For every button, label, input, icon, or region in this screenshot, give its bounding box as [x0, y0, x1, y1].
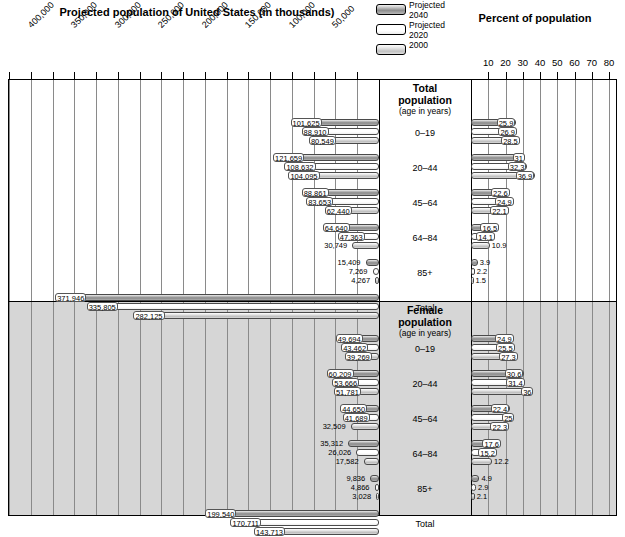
percent-bar	[471, 242, 490, 249]
right-axis-tickmark	[506, 72, 507, 79]
count-value-label: 4,866	[351, 483, 370, 492]
count-value-label: 7,269	[349, 267, 368, 276]
age-group-label: 45–64	[379, 198, 471, 208]
count-value-label: 88,861	[302, 188, 329, 197]
percent-value-label: 25.9	[497, 118, 516, 127]
age-group-label: Total	[379, 519, 471, 529]
count-value-label: 335,805	[87, 302, 118, 311]
count-value-label: 3,028	[352, 492, 371, 501]
percent-value-label: 26.9	[498, 127, 517, 136]
count-bar	[366, 259, 379, 266]
gridline	[161, 302, 162, 515]
age-group-label: 20–44	[379, 163, 471, 173]
gridline	[248, 80, 249, 301]
percent-bar	[471, 268, 475, 275]
count-value-label: 64,640	[323, 223, 350, 232]
percent-value-label: 22.6	[491, 188, 510, 197]
gridline	[540, 302, 541, 515]
count-value-label: 15,409	[338, 258, 361, 267]
count-value-label: 143,713	[254, 527, 285, 536]
percent-value-label: 14.1	[476, 232, 495, 241]
percent-value-label: 25.5	[496, 343, 515, 352]
panel-heading-line1: Total	[379, 83, 471, 95]
gridline	[609, 80, 610, 301]
count-bar	[351, 423, 379, 430]
count-value-label: 39,269	[345, 352, 372, 361]
age-group-label: 64–84	[379, 233, 471, 243]
gridline	[183, 302, 184, 515]
left-axis-minor-tickmark	[270, 72, 271, 79]
left-axis-tickmark	[335, 72, 336, 79]
count-value-label: 104,095	[288, 171, 319, 180]
gridline	[592, 302, 593, 515]
gridline	[118, 80, 119, 301]
right-axis-tickmark	[488, 72, 489, 79]
age-group-label: 85+	[379, 268, 471, 278]
count-value-label: 51,781	[334, 387, 361, 396]
gridline	[523, 80, 524, 301]
legend-swatch-p2020	[376, 24, 406, 35]
left-axis-minor-tickmark	[53, 72, 54, 79]
percent-value-label: 3.9	[480, 258, 490, 267]
panel-heading-line1: Female	[379, 305, 471, 317]
percent-value-label: 22.3	[490, 422, 509, 431]
gridline	[140, 302, 141, 515]
age-group-label: 45–64	[379, 414, 471, 424]
percent-value-label: 36.9	[516, 171, 535, 180]
count-bar	[370, 475, 379, 482]
gridline	[292, 302, 293, 515]
percent-value-label: 22.1	[490, 206, 509, 215]
gridline	[575, 80, 576, 301]
right-axis-tickmark	[523, 72, 524, 79]
count-value-label: 43,462	[341, 343, 368, 352]
legend-swatch-p2040	[376, 4, 406, 15]
left-axis-tickmark	[161, 72, 162, 79]
left-axis-tickmark	[31, 72, 32, 79]
panel-heading-subtitle: (age in years)	[379, 328, 471, 340]
left-axis-minor-tickmark	[357, 72, 358, 79]
percent-value-label: 30.6	[505, 369, 524, 378]
panel-heading-female: Femalepopulation(age in years)	[379, 305, 471, 340]
gridline	[592, 80, 593, 301]
count-bar	[352, 242, 379, 249]
gridline	[9, 80, 10, 301]
percent-bar	[471, 259, 478, 266]
count-value-label: 83,653	[306, 197, 333, 206]
gridline	[557, 302, 558, 515]
count-value-label: 35,312	[320, 439, 343, 448]
right-chart-title: Percent of population	[455, 12, 615, 24]
gridline	[53, 80, 54, 301]
percent-bar	[471, 484, 476, 491]
count-bar	[375, 277, 379, 284]
count-value-label: 60,209	[327, 369, 354, 378]
count-value-label: 62,440	[325, 206, 352, 215]
count-value-label: 49,694	[336, 334, 363, 343]
percent-bar	[471, 493, 475, 500]
right-axis-tickmark	[592, 72, 593, 79]
gridline	[205, 302, 206, 515]
left-axis-tickmark	[248, 72, 249, 79]
percent-value-label: 22.4	[491, 404, 510, 413]
right-axis-tickmark	[575, 72, 576, 79]
gridline	[9, 302, 10, 515]
percent-value-label: 17.6	[482, 439, 501, 448]
percent-value-label: 15.2	[478, 448, 497, 457]
count-bar	[87, 303, 379, 310]
gridline	[74, 80, 75, 301]
percent-value-label: 4.9	[481, 474, 491, 483]
count-value-label: 170,711	[230, 518, 261, 527]
gridline	[248, 302, 249, 515]
count-value-label: 53,666	[332, 378, 359, 387]
legend-item-p2020: Projected2020	[376, 22, 476, 42]
gridline	[31, 80, 32, 301]
percent-value-label: 31.4	[506, 378, 525, 387]
gridline	[118, 302, 119, 515]
count-value-label: 32,509	[323, 422, 346, 431]
left-axis-minor-tickmark	[183, 72, 184, 79]
count-bar	[375, 484, 379, 491]
gridline	[523, 302, 524, 515]
count-bar	[356, 449, 379, 456]
left-axis-minor-tickmark	[140, 72, 141, 79]
count-value-label: 17,582	[336, 457, 359, 466]
gridline	[270, 302, 271, 515]
